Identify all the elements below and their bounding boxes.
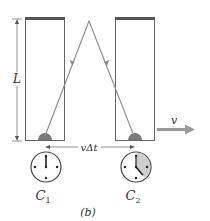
clock-c2 (121, 152, 151, 182)
displacement-dimension: vΔt (45, 142, 135, 153)
detector-2 (128, 133, 142, 140)
displacement-label: vΔt (81, 142, 99, 153)
length-dimension: L (12, 19, 22, 141)
light-ray-path (45, 21, 134, 136)
velocity-arrow: v (157, 114, 195, 135)
mirror-top-1 (25, 17, 65, 20)
mirror-top-2 (115, 17, 155, 20)
figure-caption: (b) (80, 206, 96, 219)
light-clock-box-2 (115, 17, 155, 141)
light-clock-diagram: L vΔt v (0, 0, 210, 221)
length-label: L (12, 72, 21, 86)
velocity-label: v (171, 114, 178, 127)
clock-label-c2: C2 (125, 188, 140, 205)
clock-label-c1: C1 (35, 188, 50, 205)
light-clock-box-1 (25, 17, 65, 141)
detector-1 (38, 133, 52, 140)
clock-c1 (31, 152, 61, 182)
